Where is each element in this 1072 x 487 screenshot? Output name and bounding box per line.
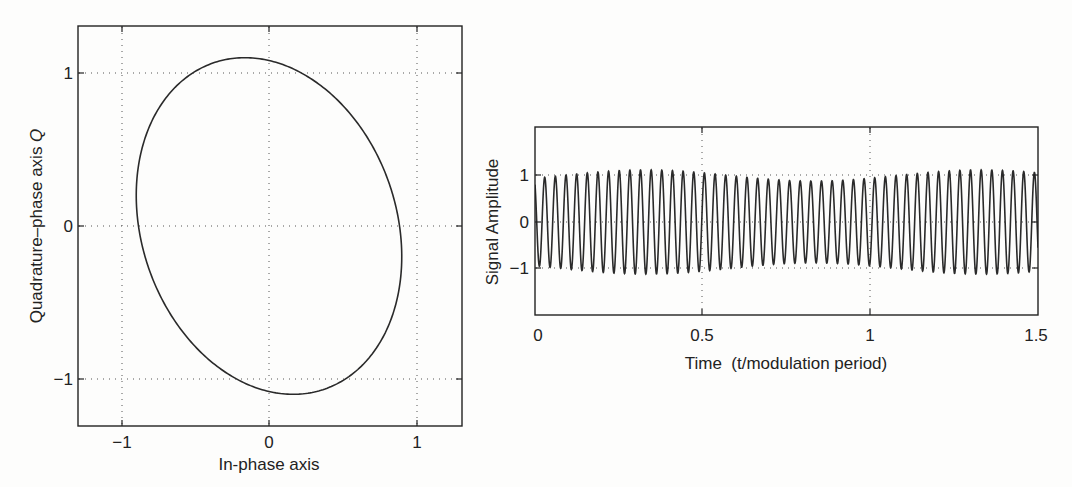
signal-ylabel: Signal Amplitude	[483, 159, 502, 286]
iq-ytick-label: 0	[64, 217, 73, 236]
iq-xtick-label: −1	[112, 433, 131, 452]
iq-tick-marks	[78, 26, 462, 426]
signal-ytick-label: −1	[510, 259, 529, 278]
signal-waveform	[535, 170, 1038, 274]
signal-xtick-label: 0.5	[690, 326, 714, 345]
signal-xlabel: Time (t/modulation period)	[685, 354, 888, 373]
figure: −1 0 1 1 0 −1 In-phase axis Quadrature–p…	[0, 0, 1072, 487]
iq-axes-frame	[78, 26, 462, 426]
iq-xlabel: In-phase axis	[218, 455, 319, 474]
iq-plot: −1 0 1 1 0 −1 In-phase axis Quadrature–p…	[27, 26, 462, 474]
signal-xtick-label: 1.5	[1024, 326, 1048, 345]
signal-plot: 0 0.5 1 1.5 1 0 −1 Time (t/modulation pe…	[483, 127, 1048, 373]
signal-ytick-label: 0	[520, 213, 529, 232]
signal-ytick-label: 1	[520, 166, 529, 185]
signal-xtick-label: 0	[533, 326, 542, 345]
signal-xtick-label: 1	[865, 326, 874, 345]
iq-xtick-label: 0	[264, 433, 273, 452]
iq-grid	[79, 27, 461, 425]
iq-xtick-label: 1	[412, 433, 421, 452]
iq-ylabel: Quadrature–phase axis Q	[27, 129, 46, 324]
iq-ytick-label: 1	[64, 64, 73, 83]
iq-ytick-label: −1	[54, 370, 73, 389]
